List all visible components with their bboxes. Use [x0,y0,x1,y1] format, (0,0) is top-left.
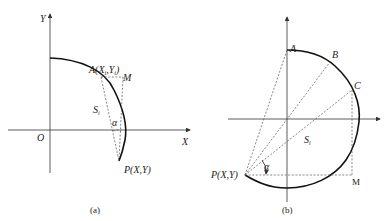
area-label: Si [304,134,311,146]
figure: Y X O A(Xi,Yi) M P(X,Y) Si α (a) A B C M… [0,0,388,221]
caption-a: (a) [90,205,100,215]
ray-PC [245,90,352,175]
arc-length-label: Si [93,104,100,116]
angle-label: α [264,161,270,172]
panel-a: Y X O A(Xi,Yi) M P(X,Y) Si α (a) [8,13,190,215]
panel-b: A B C M P(X,Y) Si α (b) [210,17,380,215]
point-c-label: C [354,80,361,91]
point-m-label: M [122,72,132,83]
ray-PB [245,62,330,175]
origin-label: O [37,132,44,143]
point-a-label: A [289,43,297,54]
point-p-label: P(X,Y) [210,169,239,181]
caption-b: (b) [282,205,293,215]
point-b-label: B [332,49,338,60]
ray-PA [245,50,287,175]
x-axis-label: X [181,136,189,147]
point-p-label: P(X,Y) [123,164,152,176]
point-a-label: A(Xi,Yi) [88,64,120,76]
angle-label: α [112,117,118,128]
point-m-label: M [352,177,360,187]
y-axis-label: Y [40,13,47,24]
